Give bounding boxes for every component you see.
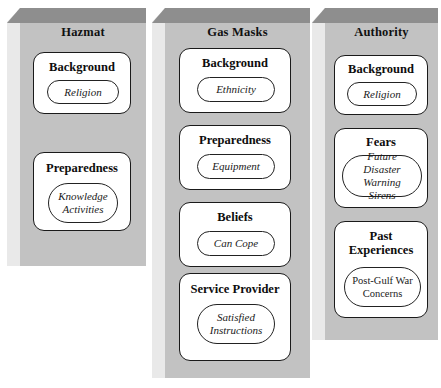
construct-label: Preparedness (180, 133, 290, 147)
construct-box-preparedness[interactable]: Preparedness Equipment (179, 125, 291, 190)
attribute-pill[interactable]: Future DisasterWarning Sirens (342, 155, 422, 197)
attribute-label: Can Cope (208, 237, 264, 250)
attribute-pill[interactable]: Can Cope (197, 231, 275, 256)
construct-label: Beliefs (180, 210, 290, 224)
attribute-pill[interactable]: Post-Gulf WarConcerns (344, 267, 421, 307)
attribute-pill[interactable]: Religion (347, 82, 417, 106)
attribute-label: Religion (357, 88, 406, 101)
column-title-gas-masks: Gas Masks (165, 25, 310, 40)
diagram-canvas: Hazmat Background Religion Preparedness … (0, 0, 441, 388)
attribute-label: KnowledgeActivities (52, 190, 114, 216)
construct-label: Background (335, 62, 427, 76)
column-top-bevel-face (7, 8, 146, 24)
attribute-pill[interactable]: KnowledgeActivities (48, 183, 118, 223)
construct-label: Service Provider (180, 282, 290, 296)
attribute-label: Ethnicity (210, 83, 262, 96)
construct-label: PastExperiences (335, 229, 427, 257)
construct-box-background[interactable]: Background Religion (334, 55, 428, 115)
construct-box-beliefs[interactable]: Beliefs Can Cope (179, 202, 291, 267)
column-gas-masks: Gas Masks Background Ethnicity Preparedn… (152, 8, 310, 378)
construct-box-fears[interactable]: Fears Future DisasterWarning Sirens (334, 128, 428, 208)
attribute-pill[interactable]: SatisfiedInstructions (197, 304, 275, 344)
construct-box-background[interactable]: Background Ethnicity (179, 48, 291, 113)
column-title-hazmat: Hazmat (20, 25, 146, 40)
construct-label: Fears (335, 135, 427, 149)
attribute-label: Post-Gulf WarConcerns (346, 274, 419, 300)
construct-label: Background (34, 60, 130, 74)
construct-box-past-experiences[interactable]: PastExperiences Post-Gulf WarConcerns (334, 221, 428, 318)
construct-box-preparedness[interactable]: Preparedness KnowledgeActivities (33, 152, 131, 231)
column-top-bevel-face (152, 8, 310, 24)
attribute-label: Future DisasterWarning Sirens (343, 150, 421, 202)
column-authority: Authority Background Religion Fears Futu… (312, 8, 438, 340)
column-top-bevel-face (312, 8, 438, 24)
attribute-label: Equipment (206, 160, 266, 173)
attribute-pill[interactable]: Ethnicity (197, 77, 275, 102)
attribute-label: Religion (58, 86, 107, 99)
attribute-pill[interactable]: Equipment (197, 154, 275, 179)
construct-box-background[interactable]: Background Religion (33, 52, 131, 114)
attribute-label: SatisfiedInstructions (204, 311, 269, 337)
column-title-authority: Authority (325, 25, 438, 40)
column-hazmat: Hazmat Background Religion Preparedness … (7, 8, 146, 266)
construct-label: Preparedness (34, 161, 130, 175)
construct-box-service-provider[interactable]: Service Provider SatisfiedInstructions (179, 273, 291, 361)
attribute-pill[interactable]: Religion (47, 80, 119, 104)
construct-label: Background (180, 56, 290, 70)
